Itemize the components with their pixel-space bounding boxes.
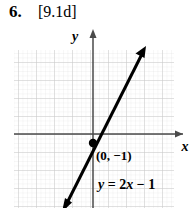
plotted-point-label: (0, −1)	[96, 148, 132, 163]
problem-header: 6. [9.1d]	[0, 2, 196, 26]
equation-label: y = 2x − 1	[96, 177, 155, 192]
y-axis-label: y	[70, 29, 79, 44]
equation-label-x: x	[125, 177, 133, 192]
figure-page: 6. [9.1d]	[0, 0, 196, 208]
plotted-point-marker	[89, 139, 97, 147]
section-reference: [9.1d]	[38, 3, 77, 21]
equation-label-operator: = 2	[104, 177, 126, 192]
equation-label-constant: − 1	[133, 177, 155, 192]
x-axis-arrowhead	[175, 131, 183, 138]
problem-number: 6.	[9, 2, 22, 22]
y-axis-arrowhead	[90, 29, 97, 38]
x-axis-label: x	[181, 139, 189, 154]
coordinate-graph: y x (0, −1) y = 2x − 1	[0, 26, 196, 208]
